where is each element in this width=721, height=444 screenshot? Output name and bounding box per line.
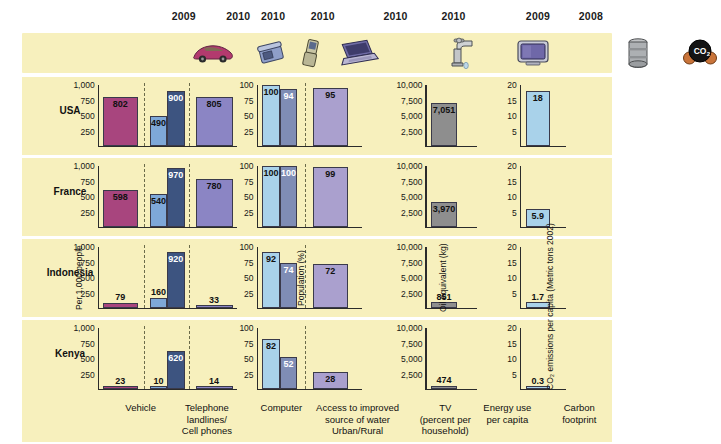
y-tick-label: 7,500 [401, 177, 422, 186]
x-axis [425, 146, 476, 148]
bar-value-label: 920 [168, 255, 183, 264]
footer-label-band: VehicleTelephonelandlines/Cell phonesCom… [22, 398, 612, 442]
panel-carbon: 20151055.9 [520, 166, 566, 228]
bar-water-rural: 94 [280, 89, 297, 146]
y-tick-label: 10 [507, 355, 516, 364]
bar-value-label: 100 [264, 169, 279, 178]
panel-water-tv: 100755025825228 [257, 328, 363, 390]
panel-energy: 10,0007,5005,0002,500474 [425, 328, 476, 390]
bar-cell-phone: 920 [167, 252, 184, 308]
y-tick-label: 5,000 [401, 112, 422, 121]
bar-cell-phone: 970 [167, 168, 184, 227]
category-label: Energy useper capita [472, 402, 543, 425]
y-tick-label: 100 [239, 243, 253, 252]
panel-divider [144, 245, 145, 308]
y-axis [98, 328, 100, 390]
bar-computer: 14 [196, 386, 233, 388]
bar-value-label: 0.3 [532, 377, 545, 386]
y-tick-label: 15 [507, 177, 516, 186]
bar-tv: 28 [313, 372, 348, 389]
panel-transport-communication: 1,0007505002507916092033 [98, 247, 237, 309]
y-tick-label: 5 [512, 370, 517, 379]
y-tick-label: 250 [80, 127, 94, 136]
y-tick-label: 7,500 [401, 258, 422, 267]
y-tick-label: 10 [507, 274, 516, 283]
panel-energy: 10,0007,5005,0002,5003,970 [425, 166, 476, 228]
category-label: Carbonfootprint [546, 402, 612, 425]
x-axis [98, 146, 237, 148]
y-tick-label: 75 [244, 96, 253, 105]
y-axis [98, 166, 100, 228]
bar-value-label: 490 [151, 119, 166, 128]
y-tick-label: 5,000 [401, 193, 422, 202]
y-axis [257, 85, 259, 147]
y-tick-label: 20 [507, 81, 516, 90]
y-tick-label: 75 [244, 177, 253, 186]
bar-value-label: 74 [284, 266, 294, 275]
panel-energy: 10,0007,5005,0002,500851 [425, 247, 476, 309]
bar-value-label: 540 [151, 197, 166, 206]
y-tick-label: 20 [507, 162, 516, 171]
y-tick-label: 50 [244, 355, 253, 364]
y-tick-label: 750 [80, 177, 94, 186]
svg-text:CO: CO [694, 46, 707, 56]
bar-tv: 99 [313, 167, 348, 227]
category-label: Vehicle [108, 402, 174, 414]
y-tick-label: 250 [80, 370, 94, 379]
year-label: 2010 [301, 10, 345, 22]
bar-value-label: 95 [325, 91, 335, 100]
panel-transport-communication: 1,000750500250231062014 [98, 328, 237, 390]
bar-value-label: 100 [264, 88, 279, 97]
bar-value-label: 780 [207, 182, 222, 191]
panel-divider [305, 164, 306, 227]
year-label: 2010 [374, 10, 418, 22]
bar-value-label: 82 [266, 342, 276, 351]
bar-value-label: 79 [115, 293, 125, 302]
x-axis [520, 308, 566, 310]
y-tick-label: 10,000 [396, 243, 422, 252]
year-label: 2008 [569, 10, 613, 22]
panel-water-tv: 100755025927472 [257, 247, 363, 309]
country-row-indonesia: Indonesia1,00075050025079160920331007550… [22, 239, 612, 317]
bar-vehicle: 598 [103, 190, 138, 226]
bar-water-urban: 92 [262, 252, 279, 308]
y-tick-label: 50 [244, 112, 253, 121]
panel-divider [189, 326, 190, 389]
bar-value-label: 970 [168, 171, 183, 180]
x-axis [425, 389, 476, 391]
x-axis [520, 146, 566, 148]
y-tick-label: 100 [239, 162, 253, 171]
y-tick-label: 5 [512, 208, 517, 217]
y-tick-label: 10 [507, 112, 516, 121]
y-tick-label: 2,500 [401, 127, 422, 136]
bar-value-label: 14 [209, 377, 219, 386]
bar-value-label: 52 [284, 360, 294, 369]
bar-value-label: 99 [325, 170, 335, 179]
bar-value-label: 33 [209, 296, 219, 305]
y-axis [257, 166, 259, 228]
bar-cell-phone: 620 [167, 351, 184, 389]
bar-value-label: 805 [207, 100, 222, 109]
y-axis [257, 328, 259, 390]
bar-value-label: 620 [168, 354, 183, 363]
bar-telephone-landline: 10 [150, 386, 167, 388]
y-tick-label: 20 [507, 243, 516, 252]
bar-vehicle: 79 [103, 303, 138, 308]
bar-energy-use: 7,051 [431, 103, 458, 146]
y-tick-label: 20 [507, 324, 516, 333]
y-axis [98, 85, 100, 147]
x-axis [257, 227, 363, 229]
bar-value-label: 10 [153, 377, 163, 386]
oil-barrel-icon [610, 33, 666, 73]
bar-computer: 805 [196, 97, 233, 146]
y-tick-label: 7,500 [401, 339, 422, 348]
panel-divider [189, 245, 190, 308]
y-tick-label: 15 [507, 96, 516, 105]
x-axis [425, 227, 476, 229]
icon-band: CO 2 [22, 33, 612, 73]
bar-value-label: 28 [325, 375, 335, 384]
television-icon [505, 33, 561, 73]
y-axis [98, 247, 100, 309]
laptop-computer-icon [330, 33, 386, 73]
y-axis-title-oil-equivalent: Oil equivalent (kg) [438, 243, 448, 312]
